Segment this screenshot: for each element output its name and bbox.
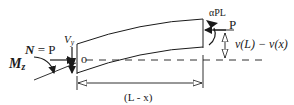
end-load-label: P [229,18,236,31]
beam-segment [77,19,203,74]
end-moment-label: αPL [209,8,226,18]
shear-force-label: Vy [64,34,74,47]
length-label: (L - x) [124,92,152,103]
moment-label: Mz [9,57,25,72]
deflection-label: v(L) − v(x) [235,38,288,50]
origin-label: o [81,53,87,65]
normal-force-label: N = P [25,43,55,56]
